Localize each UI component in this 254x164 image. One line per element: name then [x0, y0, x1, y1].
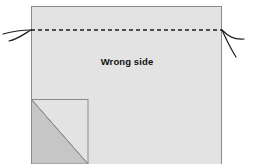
wrong-side-label: Wrong side [101, 56, 154, 67]
thread-right-lower-icon [222, 30, 236, 57]
diagram-canvas: Wrong side [0, 0, 254, 164]
sewing-diagram: Wrong side [0, 0, 254, 164]
